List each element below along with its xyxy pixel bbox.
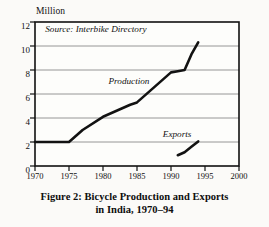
chart-svg: Source: Interbike Directory Production E…	[0, 0, 269, 190]
chart-plot-region: Million 12 10 8 6 4 2 0 1970 1975 1980 1…	[0, 0, 269, 190]
series-label-production: Production	[107, 76, 149, 86]
figure-caption: Figure 2: Bicycle Production and Exports…	[0, 190, 269, 216]
source-note: Source: Interbike Directory	[45, 24, 147, 34]
figure-container: Million 12 10 8 6 4 2 0 1970 1975 1980 1…	[0, 0, 269, 227]
series-label-exports: Exports	[162, 129, 192, 139]
caption-line-2: in India, 1970–94	[0, 203, 269, 216]
caption-line-1: Figure 2: Bicycle Production and Exports	[0, 190, 269, 203]
